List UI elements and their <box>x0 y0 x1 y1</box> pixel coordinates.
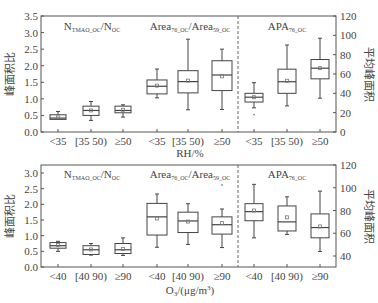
box-[35 50) <box>278 45 296 106</box>
box-[35 50) <box>178 39 198 110</box>
x-category-label: ≥90 <box>213 270 231 282</box>
y-right-tick-label: 60 <box>340 68 352 80</box>
x-axis-label: O3/(μg/m3) <box>166 284 215 298</box>
x-category-label: ≥50 <box>311 135 329 147</box>
y-right-tick-label: 100 <box>340 29 357 41</box>
y-left-tick-label: 3.5 <box>24 10 38 22</box>
y-left-tick-label: 3.0 <box>24 167 38 179</box>
y-left-tick-label: 1.0 <box>24 93 38 105</box>
box-plot-figure: 0.00.51.01.52.02.53.03.5020406080100120峰… <box>0 0 378 303</box>
y-left-tick-label: 2.0 <box>24 198 38 210</box>
box-<35 <box>50 111 66 119</box>
y-left-label: 峰面积比 <box>4 52 17 96</box>
box-[40 90) <box>83 244 99 256</box>
y-right-tick-label: 100 <box>340 182 357 194</box>
group-title: NTMAO_OC/NOC <box>64 20 120 33</box>
x-category-label: <35 <box>49 135 67 147</box>
panel-top: 0.00.51.01.52.02.53.03.5020406080100120峰… <box>4 10 375 159</box>
y-right-tick-label: 120 <box>340 10 357 22</box>
x-category-label: <35 <box>148 135 166 147</box>
y-left-tick-label: 2.5 <box>24 43 38 55</box>
x-category-label: ≥50 <box>114 135 132 147</box>
box-<40 <box>147 194 167 247</box>
box-≥90 <box>115 238 131 256</box>
y-right-tick-label: 80 <box>340 49 352 61</box>
group-title: APA76_OC <box>268 20 306 33</box>
x-category-label: [40 90) <box>172 270 204 283</box>
y-right-tick-label: 40 <box>340 87 352 99</box>
y-right-tick-label: 20 <box>340 107 352 119</box>
y-left-tick-label: 0.5 <box>24 245 38 257</box>
y-left-tick-label: 1.5 <box>24 76 38 88</box>
y-left-tick-label: 0.0 <box>24 126 38 138</box>
outlier <box>253 114 255 116</box>
outlier <box>221 184 223 186</box>
box-≥50 <box>115 105 131 117</box>
box-[40 90) <box>278 197 296 235</box>
box-≥50 <box>212 49 232 109</box>
x-category-label: ≥90 <box>311 270 329 282</box>
box-<35 <box>147 69 167 98</box>
y-left-tick-label: 3.0 <box>24 27 38 39</box>
y-right-tick-label: 0 <box>340 126 346 138</box>
box-≥90 <box>311 191 329 251</box>
y-right-tick-label: 40 <box>340 250 352 262</box>
box-[40 90) <box>178 204 198 245</box>
x-category-label: <40 <box>49 270 67 282</box>
y-right-tick-label: 60 <box>340 227 352 239</box>
panel-bottom: 0.00.51.01.52.02.53.0406080100120峰面积比平均峰… <box>4 159 375 298</box>
y-left-tick-label: 1.0 <box>24 230 38 242</box>
y-left-tick-label: 2.0 <box>24 60 38 72</box>
y-left-tick-label: 2.5 <box>24 183 38 195</box>
y-right-tick-label: 80 <box>340 205 352 217</box>
box-≥90 <box>212 184 232 248</box>
y-right-label: 平均峰面积 <box>362 47 375 102</box>
x-axis-label: RH/% <box>176 147 204 159</box>
box-<40 <box>50 241 66 251</box>
y-left-tick-label: 0.0 <box>24 261 38 273</box>
box-[35 50) <box>83 102 99 121</box>
y-left-tick-label: 0.5 <box>24 109 38 121</box>
x-category-label: [40 90) <box>271 270 303 283</box>
x-category-label: [35 50) <box>271 135 303 148</box>
x-category-label: <40 <box>245 270 263 282</box>
x-category-label: [35 50) <box>75 135 107 148</box>
y-left-tick-label: 1.5 <box>24 214 38 226</box>
x-category-label: [40 90) <box>75 270 107 283</box>
x-category-label: ≥90 <box>114 270 132 282</box>
group-title: Area76_OC/Area59_OC <box>150 20 231 33</box>
group-title: Area76_OC/Area59_OC <box>150 168 231 181</box>
y-left-label: 峰面积比 <box>4 194 17 238</box>
x-category-label: <35 <box>245 135 263 147</box>
x-category-label: <40 <box>148 270 166 282</box>
box-<40 <box>245 184 263 237</box>
box-≥50 <box>311 38 329 98</box>
y-right-tick-label: 120 <box>340 159 357 171</box>
group-title: NTMAO_OC/NOC <box>64 168 120 181</box>
box-<35 <box>245 83 263 116</box>
y-right-label: 平均峰面积 <box>362 189 375 244</box>
x-category-label: ≥50 <box>213 135 231 147</box>
group-title: APA76_OC <box>268 168 306 181</box>
